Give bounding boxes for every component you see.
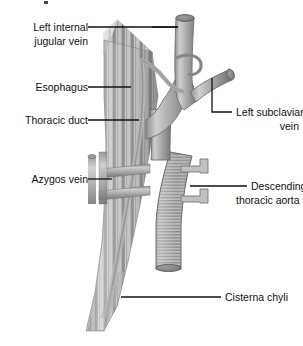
label-cisterna-chyli: Cisterna chyli [225, 291, 288, 303]
label-esophagus: Esophagus [35, 81, 88, 93]
anatomy-illustration: Left internal jugular vein Esophagus Tho… [0, 0, 303, 346]
label-descending-thoracic-aorta-line1: Descending [251, 180, 303, 192]
descending-thoracic-aorta [150, 145, 208, 275]
label-azygos-vein: Azygos vein [31, 173, 88, 185]
label-left-internal-jugular-vein-line1: Left internal [33, 21, 88, 33]
crop-artifact-mark [44, 1, 48, 4]
label-left-subclavian-vein-line2: vein [280, 120, 299, 132]
anatomical-diagram-figure: Left internal jugular vein Esophagus Tho… [0, 0, 303, 346]
label-thoracic-duct: Thoracic duct [25, 114, 88, 126]
label-left-internal-jugular-vein-line2: jugular vein [33, 35, 88, 47]
label-left-subclavian-vein-line1: Left subclavian [236, 106, 303, 118]
label-descending-thoracic-aorta-line2: thoracic aorta [236, 194, 300, 206]
